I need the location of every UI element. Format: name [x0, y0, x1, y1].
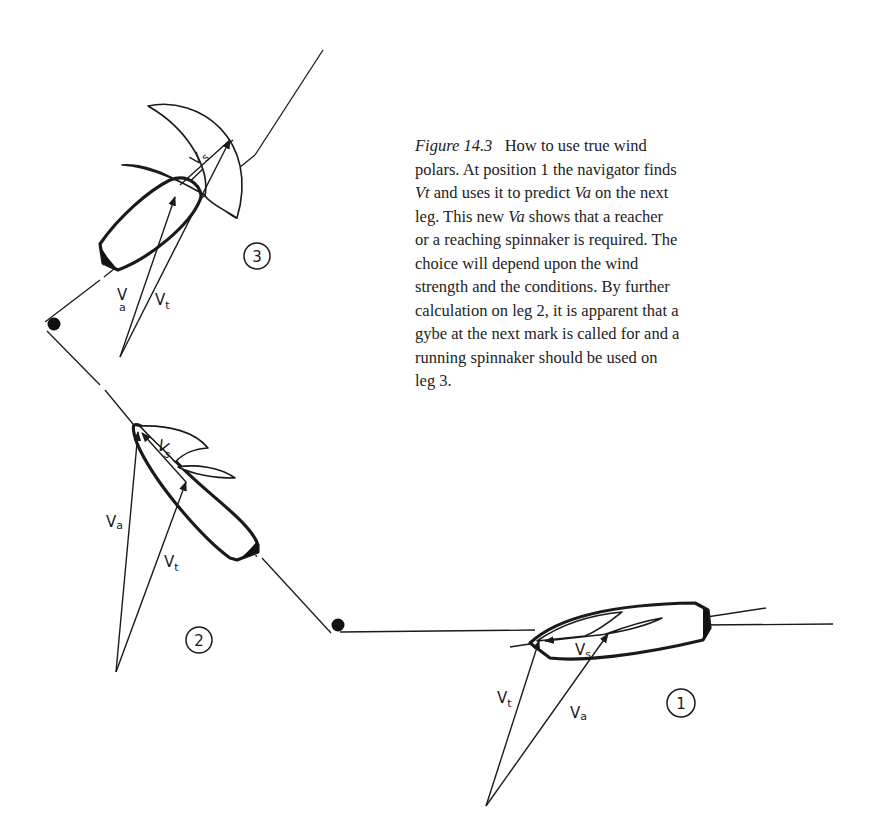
caption-line: leg. This new Va shows that a reacher [415, 205, 885, 229]
boat-2-va-label: Va [106, 513, 123, 532]
caption-line: or a reaching spinnaker is required. The [415, 228, 885, 252]
leg-2-line [47, 331, 100, 385]
true-wind-polars-diagram: Vs Va Vt 3 Vs Va Vt 2 Vs [0, 0, 891, 838]
caption-line: running spinnaker should be used on [415, 346, 885, 370]
boat-1-true-wind-vector [486, 641, 539, 806]
caption-line: Vt and uses it to predict Va on the next [415, 181, 885, 205]
figure-caption: Figure 14.3 How to use true wind polars.… [415, 134, 885, 393]
position-3-number: 3 [252, 248, 262, 266]
leg-1-line [700, 624, 833, 625]
caption-line: gybe at the next mark is called for and … [415, 322, 885, 346]
leg-2-line [262, 558, 331, 633]
position-2-group: Vs Va Vt 2 [106, 425, 258, 672]
boat-2-apparent-wind-vector [116, 432, 138, 672]
position-1-number: 1 [676, 695, 686, 713]
caption-line: strength and the conditions. By further [415, 275, 885, 299]
caption-line: calculation on leg 2, it is apparent tha… [415, 299, 885, 323]
boat-3-vt-label: Vt [155, 291, 170, 312]
position-3-group: Vs Va Vt 3 [100, 104, 270, 357]
boat-3-va-label: Va [117, 286, 128, 314]
caption-line: Figure 14.3 How to use true wind [415, 134, 885, 158]
leg-1-line [340, 630, 535, 632]
boat-3-hull [100, 178, 201, 270]
leg-2-line [105, 390, 133, 424]
caption-line: leg 3. [415, 369, 885, 393]
boat-2-vt-label: Vt [164, 553, 179, 574]
leg-3-line [45, 280, 100, 322]
position-1-group: Vs Vt Va 1 [486, 603, 766, 806]
caption-line: polars. At position 1 the navigator find… [415, 158, 885, 182]
caption-line: choice will depend upon the wind [415, 252, 885, 276]
mark-buoy-b [332, 619, 345, 632]
figure-label: Figure 14.3 [415, 136, 492, 155]
mark-buoy-a [48, 318, 61, 331]
boat-2-true-wind-vector [116, 482, 186, 672]
position-2-number: 2 [194, 632, 204, 650]
leg-3-line [255, 50, 323, 155]
boat-1-vt-label: Vt [497, 689, 512, 710]
boat-1-va-label: Va [570, 704, 587, 723]
